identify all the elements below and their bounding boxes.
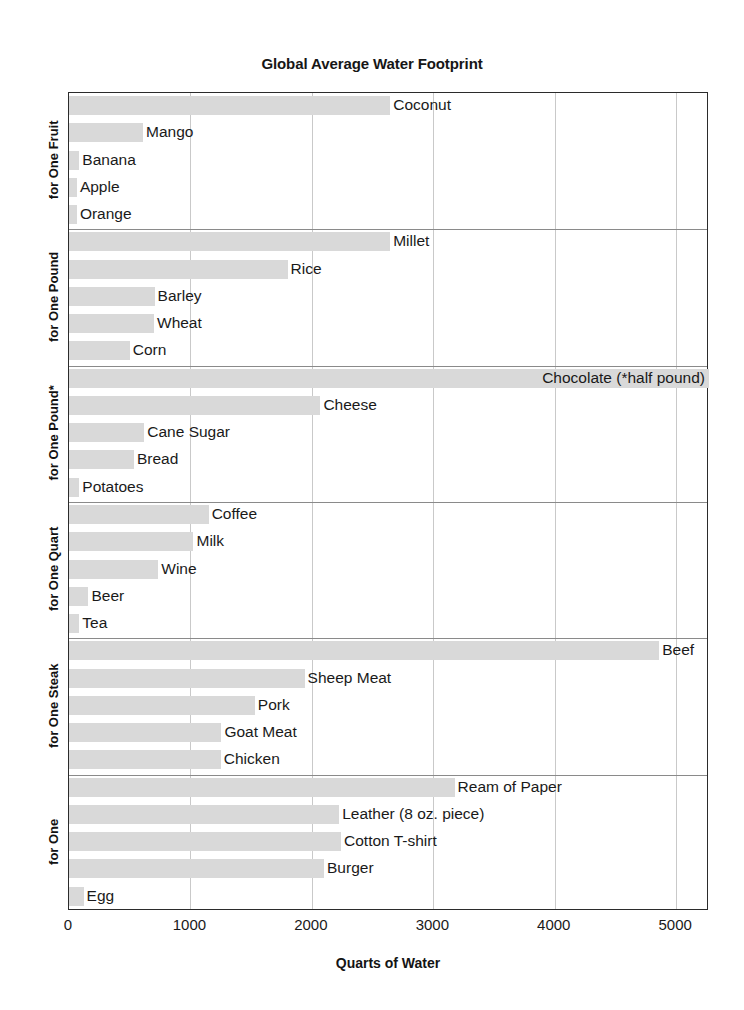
bar[interactable]: [69, 96, 390, 115]
bar-label: Barley: [158, 286, 202, 306]
bar-row[interactable]: Goat Meat: [69, 720, 707, 747]
y-axis-group-label: for One Pound*: [46, 365, 61, 501]
bar-row[interactable]: Burger: [69, 856, 707, 883]
x-tick-label: 1000: [173, 916, 206, 933]
bar[interactable]: [69, 151, 79, 170]
bar-label: Cheese: [323, 395, 376, 415]
bar-row[interactable]: Coconut: [69, 93, 707, 120]
bar[interactable]: [69, 314, 154, 333]
bar-row[interactable]: Corn: [69, 338, 707, 365]
bar-label: Rice: [291, 259, 322, 279]
bar[interactable]: [69, 669, 305, 688]
x-axis-title: Quarts of Water: [68, 955, 708, 971]
bar-row[interactable]: Wheat: [69, 311, 707, 338]
group-divider: [69, 366, 707, 367]
bar-row[interactable]: Milk: [69, 529, 707, 556]
bar-label: Corn: [133, 340, 167, 360]
bar-row[interactable]: Rice: [69, 257, 707, 284]
bar-group: BeefSheep MeatPorkGoat MeatChicken: [69, 638, 707, 774]
bar-label: Coffee: [212, 504, 257, 524]
bar-label: Coconut: [393, 95, 451, 115]
bar[interactable]: [69, 232, 390, 251]
bar-row[interactable]: Leather (8 oz. piece): [69, 802, 707, 829]
bar-label: Chocolate (*half pound): [542, 368, 705, 388]
bar-label: Pork: [258, 695, 290, 715]
x-tick-label: 2000: [294, 916, 327, 933]
group-divider: [69, 775, 707, 776]
bar-label: Cotton T-shirt: [344, 831, 437, 851]
bar[interactable]: [69, 396, 320, 415]
bar-row[interactable]: Chicken: [69, 747, 707, 774]
bar[interactable]: [69, 696, 255, 715]
group-divider: [69, 638, 707, 639]
bar-group: CoffeeMilkWineBeerTea: [69, 502, 707, 638]
bar[interactable]: [69, 478, 79, 497]
bar-label: Egg: [87, 886, 115, 906]
bar-row[interactable]: Cane Sugar: [69, 420, 707, 447]
bar[interactable]: [69, 887, 84, 906]
bar-row[interactable]: Bread: [69, 447, 707, 474]
x-tick-label: 3000: [416, 916, 449, 933]
bar[interactable]: [69, 423, 144, 442]
bar-label: Chicken: [224, 749, 280, 769]
bar-row[interactable]: Pork: [69, 693, 707, 720]
bar-row[interactable]: Cheese: [69, 393, 707, 420]
bar-row[interactable]: Orange: [69, 202, 707, 229]
bar-group: Ream of PaperLeather (8 oz. piece)Cotton…: [69, 775, 707, 911]
bar-row[interactable]: Wine: [69, 557, 707, 584]
bar-row[interactable]: Barley: [69, 284, 707, 311]
bar[interactable]: [69, 778, 455, 797]
bar[interactable]: [69, 505, 209, 524]
bar[interactable]: [69, 614, 79, 633]
bar[interactable]: [69, 341, 130, 360]
bar-row[interactable]: Apple: [69, 175, 707, 202]
bar-label: Goat Meat: [224, 722, 296, 742]
x-tick-label: 0: [64, 916, 72, 933]
bar-row[interactable]: Coffee: [69, 502, 707, 529]
page-title: Global Average Water Footprint: [0, 55, 744, 72]
bar-label: Beer: [91, 586, 124, 606]
bar[interactable]: [69, 587, 88, 606]
bar-row[interactable]: Sheep Meat: [69, 666, 707, 693]
bar-row[interactable]: Egg: [69, 884, 707, 911]
bar[interactable]: [69, 123, 143, 142]
bar-label: Millet: [393, 231, 429, 251]
bar-label: Beef: [662, 640, 694, 660]
plot-area: CoconutMangoBananaAppleOrangeMilletRiceB…: [68, 92, 708, 910]
bar-row[interactable]: Tea: [69, 611, 707, 638]
bar-row[interactable]: Ream of Paper: [69, 775, 707, 802]
bar[interactable]: [69, 723, 221, 742]
bar-row[interactable]: Mango: [69, 120, 707, 147]
y-axis-group-label: for One Steak: [46, 637, 61, 773]
bar[interactable]: [69, 178, 77, 197]
bar-label: Apple: [80, 177, 120, 197]
bar-row[interactable]: Millet: [69, 229, 707, 256]
bar[interactable]: [69, 805, 339, 824]
bar[interactable]: [69, 832, 341, 851]
y-axis-group-label: for One Quart: [46, 501, 61, 637]
bar[interactable]: [69, 750, 221, 769]
bar-label: Bread: [137, 449, 178, 469]
bar-row[interactable]: Cotton T-shirt: [69, 829, 707, 856]
x-tick-label: 5000: [659, 916, 692, 933]
bar-label: Sheep Meat: [308, 668, 392, 688]
bar-row[interactable]: Banana: [69, 148, 707, 175]
bar[interactable]: [69, 260, 288, 279]
bar-row[interactable]: Potatoes: [69, 475, 707, 502]
group-divider: [69, 502, 707, 503]
bar[interactable]: [69, 641, 659, 660]
bar[interactable]: [69, 287, 155, 306]
bar-label: Tea: [82, 613, 107, 633]
bar-label: Wheat: [157, 313, 202, 333]
bar-label: Milk: [196, 531, 224, 551]
bar[interactable]: [69, 205, 77, 224]
chart-page: Global Average Water Footprint CoconutMa…: [0, 0, 744, 1010]
bar[interactable]: [69, 532, 193, 551]
bar[interactable]: [69, 450, 134, 469]
bar-row[interactable]: Chocolate (*half pound): [69, 366, 707, 393]
bar[interactable]: [69, 560, 158, 579]
bar-row[interactable]: Beer: [69, 584, 707, 611]
bar[interactable]: [69, 859, 324, 878]
y-axis-group-label: for One: [46, 774, 61, 910]
bar-row[interactable]: Beef: [69, 638, 707, 665]
